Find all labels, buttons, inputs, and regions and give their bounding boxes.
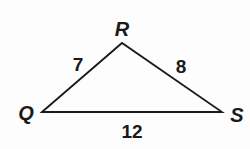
vertex-label-s: S [230,104,244,126]
side-length-qr: 7 [73,54,84,75]
side-length-rs: 8 [176,56,187,77]
vertex-label-q: Q [18,102,34,124]
triangle-qrs [42,43,222,112]
vertex-label-r: R [115,18,130,40]
triangle-diagram: R Q S 7 8 12 [0,0,250,149]
side-length-qs: 12 [121,121,142,142]
